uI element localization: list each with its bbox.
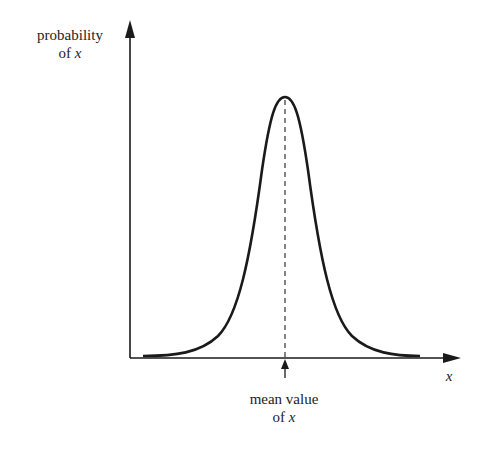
- mean-label-line1: mean value: [250, 391, 319, 407]
- x-axis-label: x: [445, 368, 453, 384]
- y-axis-arrow-icon: [125, 20, 135, 38]
- normal-distribution-diagram: probability of x x mean value of x: [0, 0, 482, 457]
- y-axis-label-line1: probability: [37, 27, 103, 43]
- y-axis-label-line2: of x: [59, 45, 82, 61]
- bell-curve: [143, 97, 420, 356]
- mean-arrow-icon: [281, 359, 289, 369]
- mean-label-line2: of x: [273, 409, 296, 425]
- x-axis-arrow-icon: [443, 353, 461, 363]
